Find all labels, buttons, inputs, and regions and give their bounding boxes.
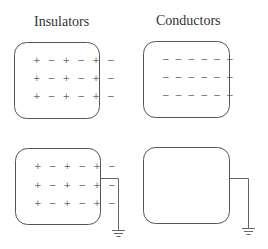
conductor-grounded-box [144,148,230,224]
charge-row: + − + − + − [34,161,118,171]
charge-row: − − − − − − [162,90,235,100]
diagram-canvas [0,0,268,249]
charge-row: + − + − + − [33,73,117,83]
ground-symbol-icon [242,229,255,235]
charge-row: + − + − + − [34,180,118,190]
ground-wire-conductor [230,179,249,229]
charge-row: + − + − + − [33,55,117,65]
ground-symbol-icon [112,231,125,237]
charge-row: + − + − + − [33,91,117,101]
charge-row: − − − − − − [162,72,235,82]
charge-row: + − + − + − [34,198,118,208]
charge-row: − − − − − − [162,54,235,64]
